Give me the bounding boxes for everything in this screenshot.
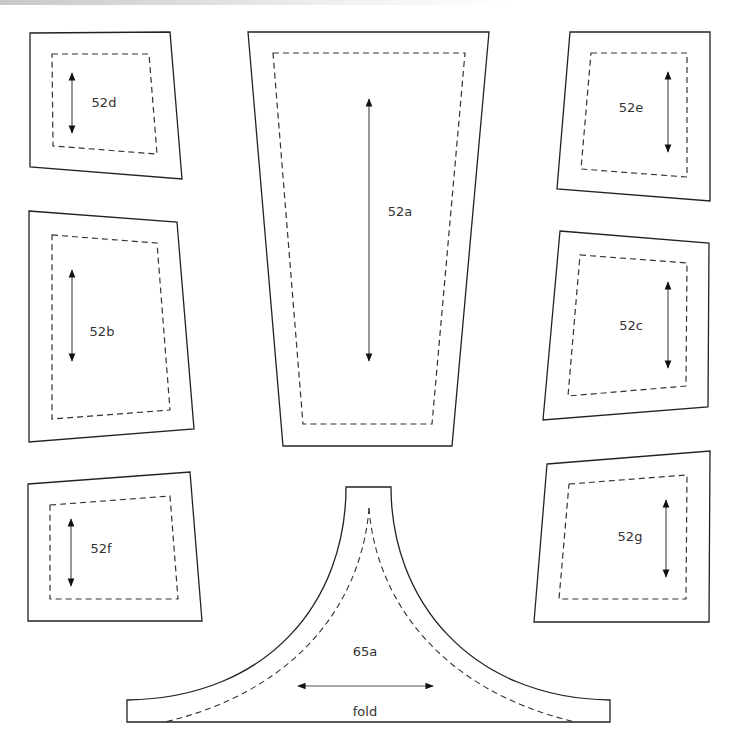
pattern-piece-52d: 52d bbox=[30, 32, 182, 179]
piece-label: 52f bbox=[90, 541, 112, 556]
pattern-piece-52a: 52a bbox=[248, 32, 489, 446]
pattern-piece-52e: 52e bbox=[557, 32, 710, 201]
pattern-diagram: 52d 52a 52e 52b 52c 52f 52 bbox=[0, 0, 732, 737]
piece-label: 52e bbox=[619, 100, 644, 115]
pattern-piece-52f: 52f bbox=[28, 472, 202, 621]
piece-label: 52g bbox=[618, 529, 643, 544]
piece-label: 65a bbox=[353, 644, 378, 659]
piece-label: 52a bbox=[388, 204, 413, 219]
piece-label: 52b bbox=[90, 324, 115, 339]
piece-label: 52d bbox=[92, 95, 117, 110]
pattern-piece-52b: 52b bbox=[29, 211, 194, 442]
fold-label: fold bbox=[353, 704, 377, 719]
piece-label: 52c bbox=[619, 318, 643, 333]
pattern-piece-52c: 52c bbox=[543, 231, 709, 420]
pattern-piece-52g: 52g bbox=[534, 451, 710, 622]
